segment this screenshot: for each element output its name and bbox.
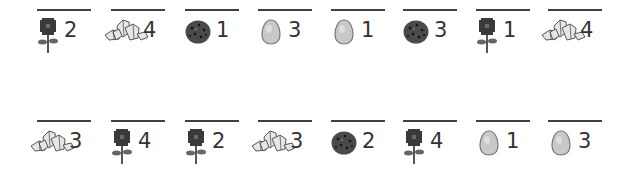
egg-icon [261, 19, 281, 45]
item-cell[interactable]: 4 [111, 9, 167, 73]
item-cell[interactable]: 1 [331, 9, 387, 73]
item-count: 2 [362, 131, 375, 152]
item-row: 2 4 1 3 1 3 [0, 9, 625, 79]
item-count: 4 [580, 20, 593, 41]
answer-line [331, 120, 385, 122]
cookie-icon [403, 20, 429, 44]
item-count: 3 [434, 20, 447, 41]
item-cell[interactable]: 3 [37, 120, 93, 176]
item-count: 1 [503, 20, 516, 41]
answer-line [403, 120, 457, 122]
item-count: 2 [64, 20, 77, 41]
cookie-icon [185, 20, 211, 44]
item-cell[interactable]: 3 [548, 120, 604, 176]
item-cell[interactable]: 1 [185, 9, 241, 73]
item-cell[interactable]: 3 [258, 9, 314, 73]
answer-line [111, 9, 165, 11]
item-row: 3 4 2 3 2 [0, 120, 625, 176]
item-count: 3 [69, 131, 82, 152]
rose-icon [476, 17, 498, 53]
answer-line [331, 9, 385, 11]
item-cell[interactable]: 3 [258, 120, 314, 176]
item-count: 3 [288, 20, 301, 41]
item-cell[interactable]: 4 [548, 9, 604, 73]
item-count: 1 [216, 20, 229, 41]
item-count: 4 [138, 131, 151, 152]
answer-line [37, 9, 91, 11]
rose-icon [111, 128, 133, 164]
egg-icon [334, 19, 354, 45]
item-cell[interactable]: 1 [476, 9, 532, 73]
egg-icon [479, 130, 499, 156]
rose-icon [37, 17, 59, 53]
answer-line [476, 120, 530, 122]
item-count: 1 [506, 131, 519, 152]
item-count: 2 [212, 131, 225, 152]
cookie-icon [331, 131, 357, 155]
item-cell[interactable]: 1 [476, 120, 532, 176]
answer-line [185, 9, 239, 11]
item-cell[interactable]: 4 [111, 120, 167, 176]
answer-line [258, 9, 312, 11]
answer-line [548, 120, 602, 122]
answer-line [111, 120, 165, 122]
item-count: 3 [578, 131, 591, 152]
answer-line [185, 120, 239, 122]
egg-icon [551, 130, 571, 156]
answer-line [476, 9, 530, 11]
item-count: 1 [361, 20, 374, 41]
answer-line [258, 120, 312, 122]
item-cell[interactable]: 3 [403, 9, 459, 73]
answer-line [403, 9, 457, 11]
rose-icon [185, 128, 207, 164]
item-cell[interactable]: 4 [403, 120, 459, 176]
answer-line [548, 9, 602, 11]
rose-icon [403, 128, 425, 164]
item-cell[interactable]: 2 [185, 120, 241, 176]
item-cell[interactable]: 2 [331, 120, 387, 176]
item-cell[interactable]: 2 [37, 9, 93, 73]
item-count: 4 [143, 20, 156, 41]
answer-line [37, 120, 91, 122]
item-count: 3 [290, 131, 303, 152]
item-count: 4 [430, 131, 443, 152]
